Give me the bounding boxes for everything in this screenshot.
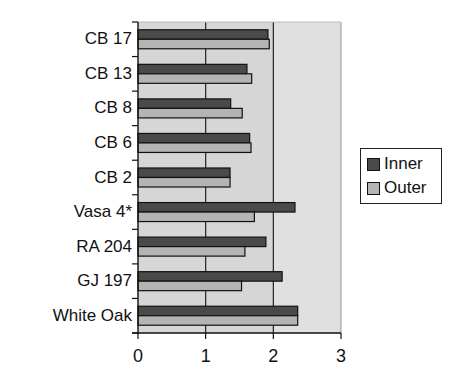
bar-inner: [138, 237, 266, 247]
value-tick-label: 1: [191, 346, 221, 367]
plot-background-band: [273, 22, 341, 333]
category-label: GJ 197: [77, 271, 132, 291]
bar-inner: [138, 306, 298, 316]
legend-swatch-inner: [367, 158, 380, 171]
bar-outer: [138, 281, 242, 291]
category-label: White Oak: [53, 306, 132, 326]
legend-item-outer: Outer: [367, 177, 427, 199]
category-label: RA 204: [76, 237, 132, 257]
legend: Inner Outer: [360, 148, 442, 204]
bar-inner: [138, 133, 250, 143]
category-label: Vasa 4*: [74, 202, 132, 222]
category-label: CB 8: [94, 98, 132, 118]
bar-inner: [138, 30, 268, 40]
bar-outer: [138, 143, 251, 153]
value-tick-label: 3: [326, 346, 356, 367]
bar-inner: [138, 168, 230, 178]
value-tick-label: 0: [123, 346, 153, 367]
bar-inner: [138, 99, 231, 109]
legend-item-inner: Inner: [367, 153, 423, 175]
legend-swatch-outer: [367, 182, 380, 195]
bar-outer: [138, 108, 242, 118]
bar-outer: [138, 212, 254, 222]
bar-outer: [138, 178, 230, 188]
bar-inner: [138, 203, 295, 213]
bar-chart: CB 17CB 13CB 8CB 6CB 2Vasa 4*RA 204GJ 19…: [0, 0, 468, 392]
value-tick-label: 2: [258, 346, 288, 367]
legend-label-inner: Inner: [384, 154, 423, 174]
category-label: CB 13: [85, 64, 132, 84]
bar-outer: [138, 39, 269, 49]
bar-outer: [138, 316, 298, 326]
bar-outer: [138, 74, 252, 84]
bar-inner: [138, 272, 282, 282]
category-label: CB 17: [85, 29, 132, 49]
bar-outer: [138, 247, 245, 257]
legend-label-outer: Outer: [384, 178, 427, 198]
category-label: CB 6: [94, 133, 132, 153]
bar-inner: [138, 64, 247, 74]
category-label: CB 2: [94, 168, 132, 188]
